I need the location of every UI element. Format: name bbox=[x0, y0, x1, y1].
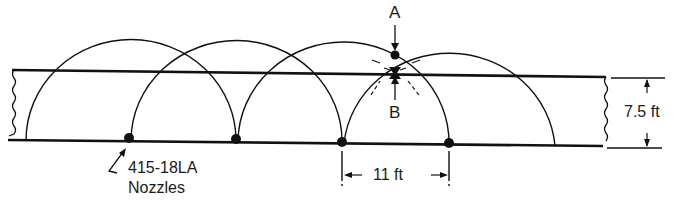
nozzle-label-line2: Nozzles bbox=[128, 180, 185, 196]
nozzle-3 bbox=[337, 137, 347, 147]
coverage-arc-4 bbox=[344, 53, 555, 146]
band-bottom-edge bbox=[8, 140, 603, 146]
nozzle-leader-line bbox=[109, 152, 123, 173]
coverage-arc-2 bbox=[131, 41, 342, 142]
spray-dash bbox=[400, 68, 406, 70]
coverage-arc-1 bbox=[26, 40, 236, 141]
dimension-arrowhead-top bbox=[644, 79, 650, 87]
spray-dash bbox=[408, 81, 419, 95]
nozzle-1 bbox=[124, 133, 134, 143]
spacing-arrowhead-right bbox=[440, 172, 448, 178]
dimension-arrowhead-bottom bbox=[644, 139, 650, 147]
spray-dash bbox=[372, 60, 380, 63]
point-a-dot bbox=[391, 51, 400, 60]
nozzle-spacing-label: 11 ft bbox=[373, 167, 403, 183]
band-width-label: 7.5 ft bbox=[624, 104, 660, 120]
point-a-arrowhead bbox=[391, 43, 399, 51]
spacing-arrowhead-left bbox=[344, 172, 352, 178]
nozzle-2 bbox=[231, 134, 241, 144]
spray-dash bbox=[412, 60, 420, 63]
break-line-left bbox=[9, 70, 16, 136]
nozzle-4 bbox=[444, 138, 454, 148]
nozzle-label-line1: 415-18LA bbox=[128, 160, 197, 176]
point-b-label: B bbox=[389, 105, 400, 121]
break-line-right bbox=[605, 77, 608, 141]
band-top-edge bbox=[12, 70, 606, 77]
spray-dash bbox=[384, 68, 390, 70]
coverage-diagram bbox=[0, 0, 674, 203]
point-a-label: A bbox=[389, 5, 400, 21]
spray-dash bbox=[371, 81, 380, 95]
